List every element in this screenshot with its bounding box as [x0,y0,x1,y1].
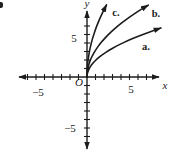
y-axis-number-5: 5 [71,32,77,44]
coordinate-plane-figure: a.b.c.−555−5yxO [0,0,170,155]
curve-a [87,28,161,77]
curve-a-label: a. [142,41,150,52]
x-axis-number-neg5: −5 [32,86,44,98]
x-axis-number-5: 5 [128,83,134,95]
origin-letter: O [75,76,83,88]
curve-c-label: c. [112,7,120,18]
curve-b-label: b. [152,8,161,19]
page-edge-artifact [0,2,3,8]
x-axis-letter: x [162,79,168,91]
y-axis-letter: y [84,0,90,9]
plot-svg: a.b.c.−555−5yxO [0,0,170,155]
y-axis-number-neg5: −5 [64,122,76,134]
